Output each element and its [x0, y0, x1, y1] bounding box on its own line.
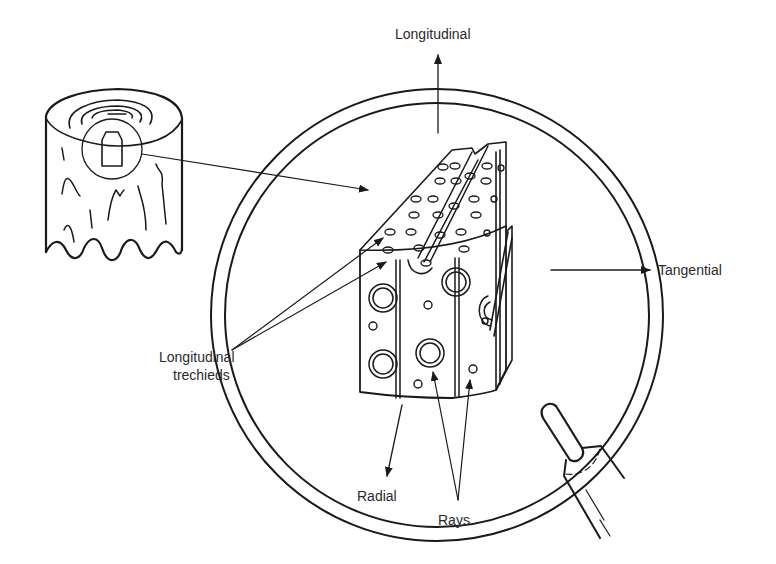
tree-stump-icon — [46, 89, 182, 260]
sample-highlight-circle — [82, 119, 142, 179]
rays-label: Rays — [438, 512, 470, 529]
bark-cracks — [62, 148, 166, 242]
radial-arrow — [387, 405, 402, 476]
growth-rings — [69, 100, 152, 128]
tangential-label: Tangential — [658, 262, 722, 279]
sample-pointer-arrow — [142, 154, 368, 190]
rays-pointer-2 — [458, 380, 470, 500]
tracheids-label-line2: trechieds — [173, 367, 230, 384]
ray-openings — [369, 301, 488, 388]
radial-label: Radial — [357, 488, 397, 505]
magnifier-handle — [542, 404, 624, 538]
bordered-pits — [369, 268, 492, 378]
sample-block-icon — [102, 132, 122, 166]
wood-block — [360, 142, 512, 398]
tracheids-label-line1: Longitudinal — [159, 349, 235, 366]
tracheids-pointer-2 — [232, 262, 386, 350]
longitudinal-label: Longitudinal — [395, 26, 471, 43]
wood-anatomy-diagram — [0, 0, 776, 564]
